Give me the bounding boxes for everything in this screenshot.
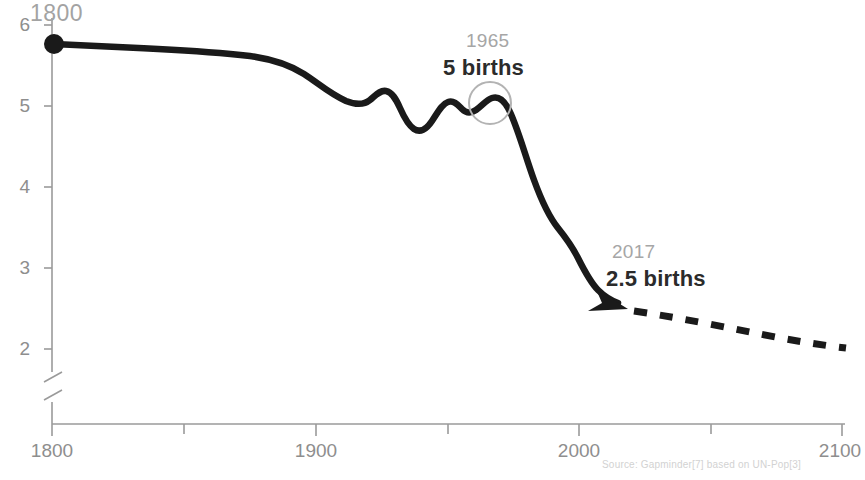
annotation-1965-year: 1965 (466, 30, 509, 52)
annotation-2017-value: 2.5 births (606, 266, 706, 292)
source-note: Source: Gapminder[7] based on UN-Pop[3] (602, 459, 801, 470)
y-tick-label-5: 5 (4, 95, 30, 117)
annotation-start-year: 1800 (30, 0, 83, 27)
end-arrow-head (588, 289, 628, 311)
y-tick-label-3: 3 (4, 257, 30, 279)
annotation-1965-value: 5 births (443, 55, 524, 81)
x-tick-label-1800: 1800 (12, 440, 92, 462)
x-tick-label-1900: 1900 (276, 440, 356, 462)
y-axis-ticks (44, 25, 52, 349)
series-projection-line (634, 311, 846, 348)
y-tick-label-6: 6 (4, 14, 30, 36)
x-tick-label-2100: 2100 (800, 440, 865, 462)
start-point-marker (44, 34, 64, 54)
y-tick-label-4: 4 (4, 176, 30, 198)
annotation-2017-year: 2017 (612, 241, 655, 263)
y-tick-label-2: 2 (4, 338, 30, 360)
series-observed-line (54, 44, 618, 303)
x-axis-ticks (52, 424, 842, 436)
